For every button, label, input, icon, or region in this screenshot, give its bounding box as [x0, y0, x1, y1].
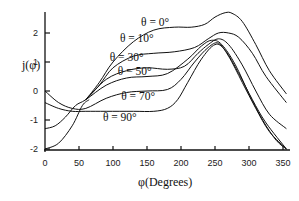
y-tick-label: -1 [30, 115, 38, 125]
x-tick-label: 250 [207, 158, 222, 168]
y-tick-label: 0 [33, 86, 38, 96]
curve-label: θ = 30° [110, 51, 144, 63]
y-axis-title: j(φ) [21, 58, 40, 72]
y-ticks: -2-1012 [30, 28, 50, 154]
x-tick-label: 200 [173, 158, 188, 168]
x-tick-label: 300 [241, 158, 256, 168]
x-tick-label: 50 [74, 158, 84, 168]
curve-label: θ = 70° [121, 90, 155, 102]
curve-label: θ = 90° [103, 111, 137, 123]
x-tick-label: 350 [275, 158, 290, 168]
x-axis-title: φ(Degrees) [138, 175, 192, 189]
x-tick-label: 150 [139, 158, 154, 168]
curve-label: θ = 10° [120, 32, 154, 44]
line-chart: 050100150200250300350 -2-1012 θ = 0°θ = … [0, 0, 299, 201]
x-tick-label: 0 [42, 158, 47, 168]
x-ticks: 050100150200250300350 [42, 146, 290, 168]
curve-labels: θ = 0°θ = 10°θ = 30°θ = 50°θ = 70°θ = 90… [103, 16, 170, 124]
curve-line [45, 44, 286, 149]
curve-label: θ = 0° [141, 16, 169, 28]
curve-label: θ = 50° [118, 65, 152, 77]
axes [44, 12, 290, 152]
y-tick-label: 2 [33, 28, 38, 38]
curves [45, 12, 286, 149]
x-tick-label: 100 [105, 158, 120, 168]
y-tick-label: -2 [30, 144, 38, 154]
